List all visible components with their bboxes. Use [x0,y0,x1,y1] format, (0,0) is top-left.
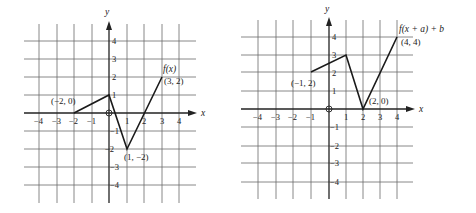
right-y-arrow-icon [326,17,332,26]
left-y-arrow-icon [106,21,112,30]
right-ytick: −4 [330,177,340,187]
left-xtick: −1 [87,116,96,126]
right-xtick: −3 [271,112,280,122]
graphs-canvas: x y −4 −3 −2 −1 1 2 3 4 4 3 2 1 −1 −2 −3… [0,0,476,213]
right-point-label: (4, 4) [401,37,421,47]
right-y-axis-label: y [324,4,330,14]
left-x-arrow-icon [188,110,197,116]
left-xtick: 1 [125,116,129,126]
left-xtick: −2 [69,116,78,126]
left-point-label: (1, −2) [124,152,149,162]
right-ytick: −1 [330,122,339,132]
left-point-label: (−2, 0) [51,96,76,106]
right-ytick: 2 [332,68,336,78]
right-x-axis-label: x [418,104,424,114]
left-point-label: (3, 2) [164,76,184,86]
right-xtick: 2 [361,112,365,122]
right-ytick: −2 [330,141,339,151]
left-ytick: −4 [110,180,120,190]
right-point-label: (2, 0) [369,96,389,106]
left-graph: x y −4 −3 −2 −1 1 2 3 4 4 3 2 1 −1 −2 −3… [24,7,206,203]
right-xtick: 1 [344,112,348,122]
left-x-axis-label: x [200,108,206,118]
right-xtick: 4 [395,112,400,122]
left-ytick: −2 [105,144,114,154]
left-xtick: 4 [177,116,182,126]
right-ytick: −3 [330,158,339,168]
left-ytick: −1 [110,126,119,136]
left-xtick: 3 [160,116,164,126]
left-ytick: 3 [112,54,116,64]
left-xtick: −4 [34,116,44,126]
right-ytick: 3 [332,50,336,60]
left-ytick: 2 [112,72,116,82]
left-xtick: −3 [52,116,61,126]
left-function-label: f(x) [163,64,176,75]
right-x-arrow-icon [406,106,415,112]
left-ytick: 1 [112,90,116,100]
right-point-label: (−1, 2) [291,78,316,88]
right-xtick: −4 [253,112,263,122]
left-ytick: −3 [110,162,119,172]
right-xtick: −2 [288,112,297,122]
right-xtick: 3 [378,112,382,122]
right-function-label: f(x + a) + b [399,24,444,35]
right-xtick: −1 [306,112,315,122]
right-ytick: 1 [332,86,336,96]
right-graph: x y −4 −3 −2 −1 1 2 3 4 4 3 2 1 −1 −2 −3… [241,4,444,199]
left-y-axis-label: y [104,7,110,17]
